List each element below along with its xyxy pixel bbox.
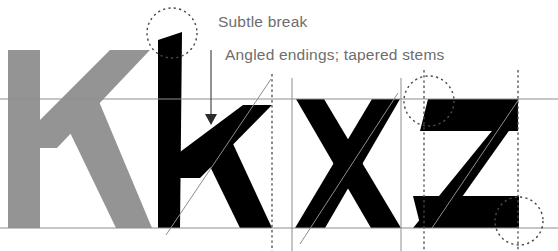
subtle-break-pointer-arrow: [205, 50, 217, 125]
glyph-uppercase-k-ghost: [8, 50, 152, 228]
glyph-lowercase-x: [295, 99, 401, 228]
annotation-subtle-break: Subtle break: [218, 13, 307, 30]
arrow-head: [205, 114, 217, 125]
lowercase-k-leg: [203, 133, 272, 228]
typography-specimen-figure: Subtle break Angled endings; tapered ste…: [0, 0, 558, 251]
glyph-lowercase-z: [413, 99, 519, 228]
uppercase-k-leg: [63, 92, 152, 228]
annotation-angled-endings: Angled endings; tapered stems: [225, 46, 445, 63]
lowercase-k-stem: [158, 32, 182, 228]
lowercase-z-bottom-bar: [413, 196, 519, 228]
uppercase-k-stem: [8, 50, 40, 228]
specimen-canvas: Subtle break Angled endings; tapered ste…: [0, 0, 558, 251]
